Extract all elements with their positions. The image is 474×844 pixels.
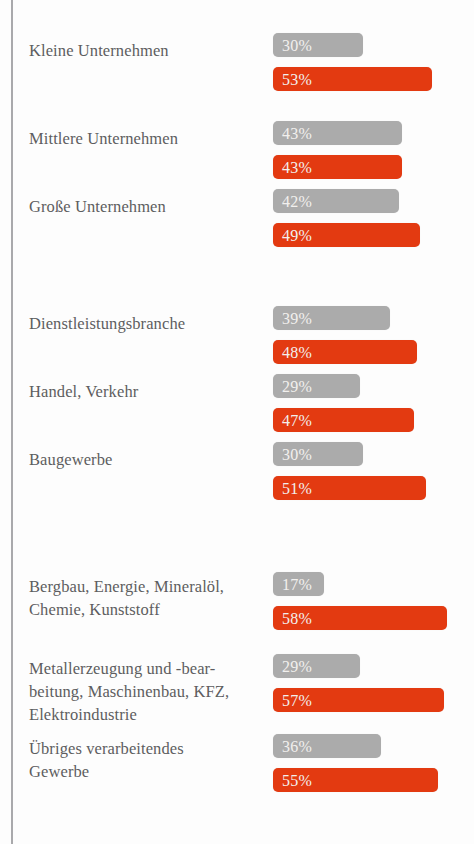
plot-area: Kleine Unternehmen 30% 53% Mittlere Unte… xyxy=(0,0,474,844)
row-label: Bergbau, Energie, Mineralöl, Chemie, Kun… xyxy=(29,575,269,621)
bar-orange[interactable]: 53% xyxy=(273,67,432,91)
row-bars: 43% 43% xyxy=(273,121,402,179)
bar-value-label: 29% xyxy=(282,374,312,398)
bar-gray[interactable]: 39% xyxy=(273,306,390,330)
bar-spacer xyxy=(273,678,444,688)
bar-gray[interactable]: 36% xyxy=(273,734,381,758)
bar-orange[interactable]: 49% xyxy=(273,223,420,247)
bar-gray[interactable]: 29% xyxy=(273,654,360,678)
bar-value-label: 55% xyxy=(282,768,312,792)
row-label: Handel, Verkehr xyxy=(29,380,269,403)
row-bars: 30% 53% xyxy=(273,33,432,91)
bar-gray[interactable]: 17% xyxy=(273,572,324,596)
bar-spacer xyxy=(273,758,438,768)
row-label: Kleine Unternehmen xyxy=(29,39,269,62)
bar-gray[interactable]: 43% xyxy=(273,121,402,145)
bar-spacer xyxy=(273,398,414,408)
bar-value-label: 43% xyxy=(282,121,312,145)
row-label: Dienstleistungsbranche xyxy=(29,312,269,335)
bar-gray[interactable]: 29% xyxy=(273,374,360,398)
row-bars: 17% 58% xyxy=(273,572,447,630)
bar-orange[interactable]: 47% xyxy=(273,408,414,432)
bar-orange[interactable]: 51% xyxy=(273,476,426,500)
bar-value-label: 57% xyxy=(282,688,312,712)
bar-value-label: 49% xyxy=(282,223,312,247)
bar-orange[interactable]: 57% xyxy=(273,688,444,712)
bar-spacer xyxy=(273,213,420,223)
bar-value-label: 47% xyxy=(282,408,312,432)
row-bars: 29% 47% xyxy=(273,374,414,432)
bar-spacer xyxy=(273,466,426,476)
row-label: Mittlere Unternehmen xyxy=(29,127,269,150)
bar-value-label: 30% xyxy=(282,442,312,466)
row-label: Baugewerbe xyxy=(29,448,269,471)
bar-orange[interactable]: 43% xyxy=(273,155,402,179)
bar-orange[interactable]: 48% xyxy=(273,340,417,364)
bar-value-label: 43% xyxy=(282,155,312,179)
bar-value-label: 53% xyxy=(282,67,312,91)
bar-orange[interactable]: 58% xyxy=(273,606,447,630)
bar-value-label: 17% xyxy=(282,572,312,596)
bar-gray[interactable]: 30% xyxy=(273,442,363,466)
bar-spacer xyxy=(273,145,402,155)
bar-value-label: 48% xyxy=(282,340,312,364)
row-label: Metallerzeugung und -bear- beitung, Masc… xyxy=(29,657,269,726)
bar-spacer xyxy=(273,596,447,606)
horizontal-bar-chart: Kleine Unternehmen 30% 53% Mittlere Unte… xyxy=(0,0,474,844)
bar-value-label: 51% xyxy=(282,476,312,500)
bar-value-label: 58% xyxy=(282,606,312,630)
row-label: Große Unternehmen xyxy=(29,195,269,218)
bar-orange[interactable]: 55% xyxy=(273,768,438,792)
bar-gray[interactable]: 30% xyxy=(273,33,363,57)
bar-value-label: 30% xyxy=(282,33,312,57)
row-bars: 30% 51% xyxy=(273,442,426,500)
row-bars: 42% 49% xyxy=(273,189,420,247)
bar-value-label: 29% xyxy=(282,654,312,678)
row-label: Übriges verarbeitendes Gewerbe xyxy=(29,737,269,783)
bar-spacer xyxy=(273,57,432,67)
bar-value-label: 42% xyxy=(282,189,312,213)
bar-value-label: 36% xyxy=(282,734,312,758)
bar-value-label: 39% xyxy=(282,306,312,330)
row-bars: 36% 55% xyxy=(273,734,438,792)
row-bars: 39% 48% xyxy=(273,306,417,364)
bar-spacer xyxy=(273,330,417,340)
row-bars: 29% 57% xyxy=(273,654,444,712)
bar-gray[interactable]: 42% xyxy=(273,189,399,213)
